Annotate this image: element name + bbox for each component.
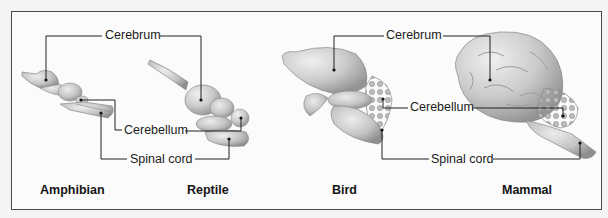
leader-spinal-bird [382, 130, 429, 159]
animal-label-amphibian: Amphibian [40, 183, 105, 197]
animal-label-reptile: Reptile [187, 183, 229, 197]
animal-label-bird: Bird [332, 183, 357, 197]
label-spinal-cord-left: Spinal cord [130, 152, 193, 166]
label-cerebellum-left: Cerebellum [124, 123, 188, 137]
amphibian-brain [22, 70, 113, 118]
bird-brain [282, 47, 392, 144]
mammal-brain [455, 32, 596, 159]
label-cerebrum-left: Cerebrum [105, 28, 161, 42]
label-cerebellum-right: Cerebellum [410, 100, 474, 114]
leader-cerebrum-amphibian [46, 36, 102, 80]
brain-comparison-diagram: Cerebrum Cerebellum Spinal cord Cerebrum… [0, 0, 608, 218]
label-spinal-cord-right: Spinal cord [431, 152, 494, 166]
label-cerebrum-right: Cerebrum [386, 28, 442, 42]
animal-label-mammal: Mammal [502, 183, 552, 197]
